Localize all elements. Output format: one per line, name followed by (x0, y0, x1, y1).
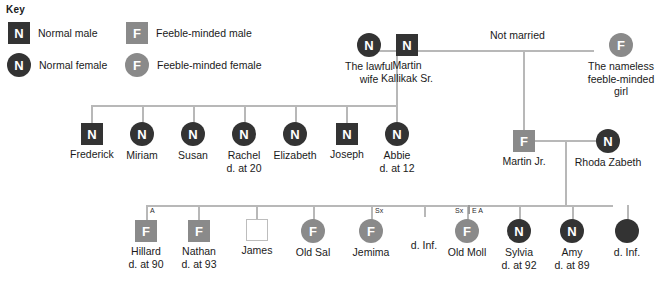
person-symbol-sylvia: N (507, 219, 531, 243)
person-elizabeth[interactable]: N Elizabeth (265, 122, 325, 162)
person-symbol-hillard: F (135, 220, 157, 242)
person-name-amy: Amy (562, 246, 583, 259)
key-title: Key (6, 4, 25, 15)
person-martin-jr[interactable]: F Martin Jr. (494, 130, 554, 168)
key-label-feeble-minded-male: Feeble-minded male (156, 27, 252, 39)
person-old-moll[interactable]: F Old Moll (437, 219, 497, 259)
stem-susan (193, 105, 195, 123)
stem-abbie (396, 105, 398, 123)
tag-jemima: Sx (375, 207, 383, 215)
tag-divider-old-moll (468, 205, 470, 214)
stem-frederick (91, 105, 93, 123)
person-rhoda-zabeth[interactable]: N Rhoda Zabeth (572, 129, 644, 169)
person-sylvia[interactable]: N Sylvia d. at 92 (489, 219, 549, 271)
person-symbol-rhoda-zabeth: N (596, 129, 620, 153)
key-entry-normal-male: N Normal male (8, 22, 98, 44)
person-symbol-amy: N (560, 219, 584, 243)
person-name-nameless-girl: The nameless (588, 60, 654, 73)
descent-line-illegitimate-union (523, 50, 525, 132)
person-name-sylvia: Sylvia (505, 246, 533, 259)
person-symbol-susan: N (181, 122, 205, 146)
person-symbol-d-inf-2 (615, 219, 639, 243)
person-name-d-inf-2: d. Inf. (614, 246, 640, 259)
person-name-martin-sr: Martin (392, 59, 421, 72)
person-symbol-james (246, 219, 268, 241)
stem-miriam (142, 105, 144, 123)
stem-hillard (146, 205, 148, 220)
person-d-inf-2[interactable]: d. Inf. (597, 219, 657, 259)
person-name2-nameless-girl: feeble-minded (588, 73, 655, 86)
person-symbol-abbie: N (385, 122, 409, 146)
person-symbol-martin-jr: F (513, 130, 535, 152)
person-symbol-rachel: N (232, 122, 256, 146)
person-note-abbie: d. at 12 (379, 162, 414, 175)
person-name-hillard: Hillard (131, 245, 161, 258)
person-amy[interactable]: N Amy d. at 89 (542, 219, 602, 271)
person-symbol-nameless-girl: F (609, 33, 633, 57)
key-entry-normal-female: N Normal female (7, 53, 107, 77)
person-name-susan: Susan (178, 149, 208, 162)
key-label-feeble-minded-female: Feeble-minded female (157, 59, 261, 71)
person-hillard[interactable]: F Hillard d. at 90 (116, 220, 176, 270)
stem-d-inf-1 (424, 205, 426, 217)
person-name-rhoda-zabeth: Rhoda Zabeth (575, 156, 642, 169)
pedigree-chart: Key N Normal male F Feeble-minded male N… (0, 0, 667, 281)
key-entry-feeble-minded-male: F Feeble-minded male (126, 22, 252, 44)
key-swatch-feeble-minded-female: F (125, 53, 149, 77)
person-name-miriam: Miriam (126, 149, 158, 162)
person-nameless-girl[interactable]: F The nameless feeble-minded girl (582, 33, 660, 98)
person-note-amy: d. at 89 (554, 259, 589, 272)
key-label-normal-female: Normal female (39, 59, 107, 71)
person-symbol-jemima: F (359, 219, 383, 243)
person-james[interactable]: James (227, 219, 287, 257)
person-name-jemima: Jemima (353, 246, 390, 259)
person-name-old-moll: Old Moll (448, 246, 487, 259)
person-symbol-elizabeth: N (283, 122, 307, 146)
person-note-hillard: d. at 90 (128, 258, 163, 271)
person-martin-sr[interactable]: N Martin Kallikak Sr. (367, 34, 447, 84)
person-symbol-joseph: N (336, 123, 358, 145)
person-name2-martin-sr: Kallikak Sr. (381, 72, 433, 85)
stem-d-inf-2 (627, 205, 629, 220)
key-label-normal-male: Normal male (38, 27, 98, 39)
person-name-rachel: Rachel (228, 149, 261, 162)
person-note-rachel: d. at 20 (226, 162, 261, 175)
person-symbol-miriam: N (130, 122, 154, 146)
stem-elizabeth (295, 105, 297, 123)
person-name-old-sal: Old Sal (296, 246, 330, 259)
key-entry-feeble-minded-female: F Feeble-minded female (125, 53, 261, 77)
key-swatch-normal-female: N (7, 53, 31, 77)
stem-nathan (198, 205, 200, 220)
person-name-nathan: Nathan (182, 245, 216, 258)
person-jemima[interactable]: F Jemima (341, 219, 401, 259)
person-nathan[interactable]: F Nathan d. at 93 (169, 220, 229, 270)
key-swatch-feeble-minded-male: F (126, 22, 148, 44)
stem-old-sal (313, 205, 315, 220)
not-married-label: Not married (490, 29, 545, 41)
key-swatch-normal-male: N (8, 22, 30, 44)
person-name-james: James (242, 244, 273, 257)
person-name-joseph: Joseph (330, 148, 364, 161)
person-name3-nameless-girl: girl (614, 85, 628, 98)
stem-joseph (346, 105, 348, 123)
person-name-abbie: Abbie (384, 149, 411, 162)
stem-sylvia (519, 205, 521, 220)
person-symbol-martin-sr: N (396, 34, 418, 56)
stem-jemima (371, 205, 373, 220)
person-abbie[interactable]: N Abbie d. at 12 (367, 122, 427, 174)
person-old-sal[interactable]: F Old Sal (283, 219, 343, 259)
person-symbol-old-sal: F (301, 219, 325, 243)
person-note-nathan: d. at 93 (181, 258, 216, 271)
person-name-martin-jr: Martin Jr. (502, 155, 545, 168)
person-symbol-old-moll: F (455, 219, 479, 243)
person-symbol-frederick: N (81, 123, 103, 145)
tag-hillard: A (150, 207, 155, 215)
stem-james (256, 205, 258, 220)
person-symbol-nathan: F (188, 220, 210, 242)
tag-old-moll: Sx (455, 207, 463, 215)
stem-rachel (244, 105, 246, 123)
descent-line-martinjr-union (565, 140, 567, 206)
person-name-frederick: Frederick (70, 148, 114, 161)
tag2-old-moll: E A (472, 207, 483, 215)
person-name-elizabeth: Elizabeth (273, 149, 316, 162)
